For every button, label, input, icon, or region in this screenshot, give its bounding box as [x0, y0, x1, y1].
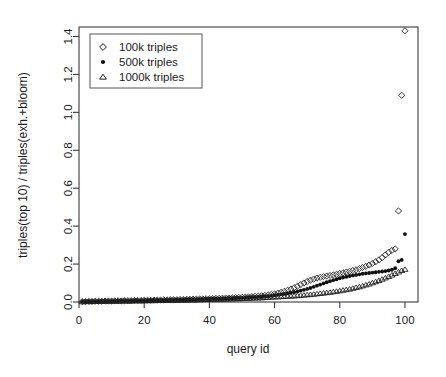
data-point: [383, 269, 387, 273]
data-point: [315, 284, 319, 288]
data-point: [328, 279, 332, 283]
y-tick-label: 0.0: [62, 294, 74, 310]
y-tick-label: 1.4: [62, 28, 74, 45]
chart-figure: 0204060801000.00.20.40.60.81.01.21.4 100…: [0, 0, 446, 377]
data-point: [387, 269, 391, 273]
y-tick-label: 0.8: [62, 142, 74, 158]
y-tick-label: 0.4: [62, 218, 74, 235]
data-point: [305, 287, 309, 291]
data-point: [380, 270, 384, 274]
data-point: [331, 278, 335, 282]
x-tick-label: 0: [76, 314, 82, 326]
x-tick-label: 100: [395, 314, 414, 326]
legend-label-3: 1000k triples: [119, 71, 184, 83]
data-point: [299, 289, 303, 293]
data-point: [302, 288, 306, 292]
legend-marker-2: [101, 60, 105, 64]
data-point: [370, 271, 374, 275]
data-point: [357, 272, 361, 276]
data-point: [325, 280, 329, 284]
y-tick-label: 1.0: [62, 104, 74, 120]
data-point: [400, 258, 404, 262]
data-point: [403, 232, 407, 236]
x-axis-title: query id: [227, 342, 270, 356]
data-point: [322, 281, 326, 285]
x-tick-label: 20: [138, 314, 151, 326]
data-point: [393, 266, 397, 270]
data-point: [361, 272, 365, 276]
data-point: [318, 283, 322, 287]
scatter-plot: 0204060801000.00.20.40.60.81.01.21.4 100…: [0, 0, 446, 377]
y-axis-title: triples(top 10) / triples(exh.+bloom): [16, 72, 30, 258]
x-tick-label: 60: [268, 314, 281, 326]
data-point: [377, 270, 381, 274]
y-tick-label: 0.6: [62, 180, 74, 196]
data-point: [374, 270, 378, 274]
x-tick-label: 80: [333, 314, 346, 326]
y-tick-label: 1.2: [62, 66, 74, 82]
x-tick-label: 40: [203, 314, 216, 326]
chart-legend: 100k triples500k triples1000k triples: [90, 34, 202, 88]
data-point: [354, 273, 358, 277]
data-point: [309, 286, 313, 290]
y-tick-label: 0.2: [62, 256, 74, 272]
data-point: [312, 285, 316, 289]
data-point: [364, 271, 368, 275]
legend-label-2: 500k triples: [119, 56, 178, 68]
data-point: [367, 271, 371, 275]
legend-label-1: 100k triples: [119, 41, 178, 53]
